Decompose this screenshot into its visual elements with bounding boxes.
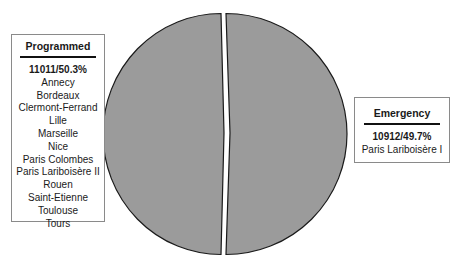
- legend-item: Paris Lariboisère II: [12, 166, 104, 179]
- legend-divider: [20, 56, 96, 58]
- legend-item: Nice: [12, 141, 104, 154]
- legend-divider: [364, 123, 440, 125]
- legend-value-emergency: 10912/49.7%: [355, 131, 449, 144]
- legend-item: Bordeaux: [12, 90, 104, 103]
- legend-box-programmed: Programmed 11011/50.3% Annecy Bordeaux C…: [11, 34, 105, 222]
- legend-item: Rouen: [12, 179, 104, 192]
- legend-item: Toulouse: [12, 205, 104, 218]
- legend-title-programmed: Programmed: [12, 40, 104, 52]
- legend-item: Paris Colombes: [12, 154, 104, 167]
- pie-slice-programmed: [103, 14, 224, 255]
- legend-item: Lille: [12, 115, 104, 128]
- legend-item: Annecy: [12, 77, 104, 90]
- legend-item: Saint-Etienne: [12, 192, 104, 205]
- legend-item: Paris Lariboisère I: [355, 144, 449, 157]
- legend-item: Clermont-Ferrand: [12, 102, 104, 115]
- pie-slice-emergency: [226, 14, 347, 255]
- legend-title-emergency: Emergency: [355, 107, 449, 119]
- legend-value-programmed: 11011/50.3%: [12, 64, 104, 77]
- legend-item: Tours: [12, 218, 104, 231]
- legend-item: Marseille: [12, 128, 104, 141]
- legend-box-emergency: Emergency 10912/49.7% Paris Lariboisère …: [354, 97, 450, 163]
